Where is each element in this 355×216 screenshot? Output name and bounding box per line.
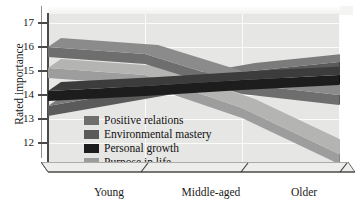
chart-figure: Rated importance 17 16 15 14 13 12 xyxy=(0,0,355,216)
y-axis-tick xyxy=(38,46,48,48)
x-axis-label-middle-aged: Middle-aged xyxy=(165,186,257,198)
legend-swatch-positive-relations xyxy=(84,116,99,125)
y-axis-tick xyxy=(38,142,48,144)
y-axis-back-line xyxy=(41,6,42,158)
y-axis-tick xyxy=(38,94,48,96)
x-axis-label-older: Older xyxy=(268,186,340,198)
x-axis-floor xyxy=(41,162,355,184)
legend-item: Positive relations xyxy=(84,113,212,127)
y-axis-label: 14 xyxy=(10,89,34,99)
legend-label: Environmental mastery xyxy=(104,128,212,140)
y-axis-tick xyxy=(38,22,48,24)
y-axis-label: 12 xyxy=(10,137,34,147)
chart-legend: Positive relations Environmental mastery… xyxy=(84,113,212,169)
legend-swatch-personal-growth xyxy=(84,144,99,153)
y-axis-label: 13 xyxy=(10,113,34,123)
legend-label: Positive relations xyxy=(104,114,184,126)
y-axis-tick xyxy=(38,118,48,120)
y-axis-label: 15 xyxy=(10,65,34,75)
legend-label: Personal growth xyxy=(104,142,179,154)
y-axis-label: 17 xyxy=(10,17,34,27)
y-axis-title: Rated importance xyxy=(13,14,25,154)
legend-item: Environmental mastery xyxy=(84,127,212,141)
legend-swatch-environmental-mastery xyxy=(84,130,99,139)
y-axis-tick xyxy=(38,70,48,72)
y-axis-label: 16 xyxy=(10,41,34,51)
x-axis-label-young: Young xyxy=(69,186,149,198)
legend-item: Personal growth xyxy=(84,141,212,155)
